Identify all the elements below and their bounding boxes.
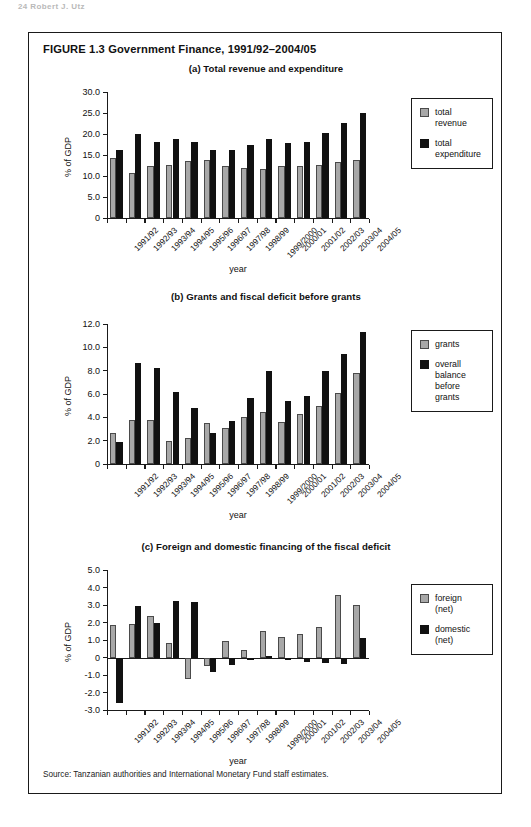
- y-tick-label: 20.0: [82, 129, 100, 139]
- y-tick-label: 2.0: [87, 618, 100, 628]
- bar: [278, 637, 284, 658]
- bar: [154, 623, 160, 658]
- y-tick-label: 4.0: [87, 583, 100, 593]
- x-tick-mark: [313, 219, 314, 223]
- bar: [229, 150, 235, 218]
- y-tick-label: 12.0: [82, 319, 100, 329]
- bar: [322, 658, 328, 663]
- chart-legend: total revenuetotal expenditure: [411, 98, 493, 169]
- x-tick-mark: [238, 711, 239, 715]
- bar: [360, 332, 366, 464]
- y-axis-line: [107, 92, 108, 218]
- x-axis-title: year: [107, 510, 369, 520]
- x-tick-mark: [369, 711, 370, 715]
- figure-title: FIGURE 1.3 Government Finance, 1991/92–2…: [43, 43, 316, 55]
- legend-item: grants: [420, 339, 483, 350]
- x-tick-mark: [144, 465, 145, 469]
- bar: [210, 433, 216, 464]
- bar: [116, 150, 122, 218]
- y-tick-label: -2.0: [84, 688, 100, 698]
- bar: [266, 656, 272, 658]
- source-note: Source: Tanzanian authorities and Intern…: [43, 770, 329, 779]
- bar: [154, 368, 160, 464]
- x-tick-mark: [163, 465, 164, 469]
- bar: [247, 145, 253, 218]
- x-tick-mark: [275, 465, 276, 469]
- bar: [266, 371, 272, 464]
- legend-label: total expenditure: [435, 138, 481, 160]
- x-tick-mark: [350, 219, 351, 223]
- bar: [154, 142, 160, 218]
- bar: [135, 363, 141, 465]
- bar: [260, 631, 266, 657]
- x-tick-mark: [163, 219, 164, 223]
- legend-item: total revenue: [420, 107, 483, 129]
- x-tick-mark: [219, 465, 220, 469]
- chart-a-plot: % of GDP05.010.015.020.025.030.01991/921…: [29, 74, 503, 280]
- chart-legend: grantsoverall balance before grants: [411, 330, 493, 412]
- x-tick-mark: [350, 711, 351, 715]
- bar: [173, 392, 179, 464]
- legend-item: overall balance before grants: [420, 359, 483, 403]
- bar: [116, 442, 122, 464]
- x-tick-mark: [126, 711, 127, 715]
- bar: [297, 634, 303, 658]
- bar: [210, 658, 216, 672]
- y-tick-label: 3.0: [87, 600, 100, 610]
- x-tick-mark: [182, 711, 183, 715]
- bar: [185, 658, 191, 679]
- y-tick-labels: -3.0-2.0-1.001.02.03.04.05.0: [29, 552, 100, 730]
- y-tick-labels: 05.010.015.020.025.030.0: [29, 74, 100, 238]
- x-tick-mark: [144, 711, 145, 715]
- x-tick-mark: [369, 219, 370, 223]
- x-tick-mark: [219, 711, 220, 715]
- bar: [322, 133, 328, 218]
- bar: [360, 113, 366, 218]
- x-tick-mark: [201, 465, 202, 469]
- x-tick-mark: [294, 465, 295, 469]
- x-tick-mark: [313, 711, 314, 715]
- chart-panel-a: (a) Total revenue and expenditure % of G…: [29, 63, 503, 291]
- x-tick-mark: [126, 465, 127, 469]
- legend-swatch-icon: [420, 625, 429, 634]
- legend-label: domestic (net): [435, 624, 470, 646]
- bar: [247, 658, 253, 661]
- chart-panel-c: (c) Foreign and domestic financing of th…: [29, 541, 503, 759]
- y-axis-line: [107, 570, 108, 710]
- bar: [135, 606, 141, 658]
- bar: [191, 142, 197, 218]
- x-tick-mark: [350, 465, 351, 469]
- bar: [304, 658, 310, 662]
- chart-legend: foreign (net)domestic (net): [411, 584, 493, 655]
- legend-item: domestic (net): [420, 624, 483, 646]
- x-tick-mark: [294, 219, 295, 223]
- chart-c-title: (c) Foreign and domestic financing of th…: [29, 541, 503, 552]
- chart-b-title: (b) Grants and fiscal deficit before gra…: [29, 291, 503, 302]
- bar: [191, 408, 197, 464]
- y-tick-label: 5.0: [87, 192, 100, 202]
- x-tick-mark: [238, 219, 239, 223]
- x-tick-mark: [107, 465, 108, 469]
- legend-swatch-icon: [420, 139, 429, 148]
- x-axis-title: year: [107, 264, 369, 274]
- x-axis-line: [107, 658, 369, 659]
- y-tick-labels: 02.04.06.08.010.012.0: [29, 302, 100, 484]
- chart-a-title: (a) Total revenue and expenditure: [29, 63, 503, 74]
- y-tick-label: 10.0: [82, 171, 100, 181]
- x-tick-mark: [294, 711, 295, 715]
- chart-panel-b: (b) Grants and fiscal deficit before gra…: [29, 291, 503, 541]
- legend-label: grants: [435, 339, 459, 350]
- y-tick-label: 10.0: [82, 342, 100, 352]
- legend-swatch-icon: [420, 108, 429, 117]
- y-tick-label: 4.0: [87, 412, 100, 422]
- chart-c-plot: % of GDP-3.0-2.0-1.001.02.03.04.05.01991…: [29, 552, 503, 772]
- bar: [191, 602, 197, 658]
- bar: [229, 421, 235, 464]
- bar: [285, 658, 291, 660]
- legend-label: foreign (net): [435, 593, 462, 615]
- bar: [229, 658, 235, 666]
- x-tick-mark: [369, 465, 370, 469]
- legend-swatch-icon: [420, 594, 429, 603]
- x-tick-mark: [182, 219, 183, 223]
- figure-page: 24 Robert J. Utz FIGURE 1.3 Government F…: [0, 0, 531, 827]
